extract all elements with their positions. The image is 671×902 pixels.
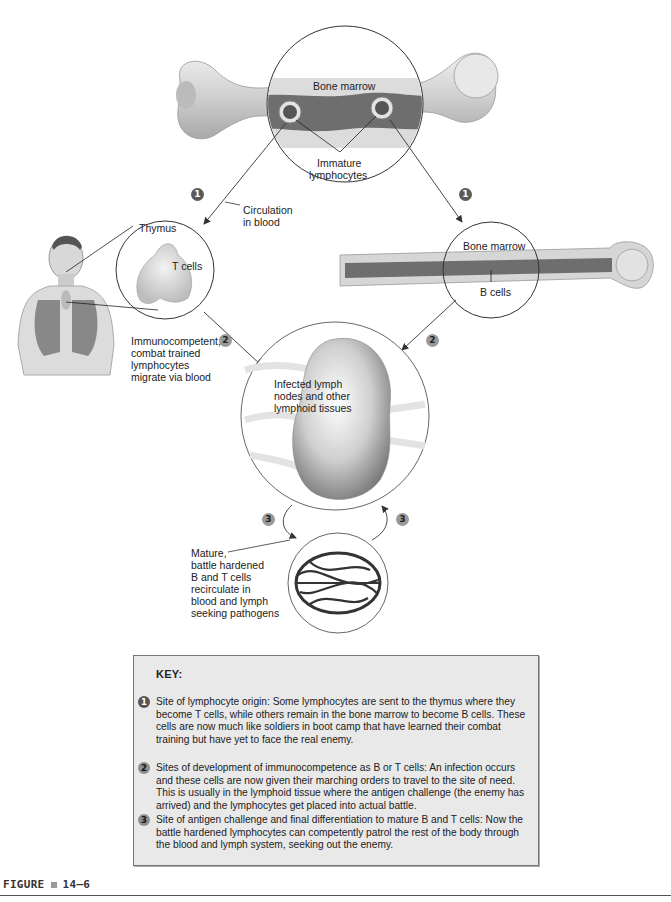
marker-3-right: 3 xyxy=(396,513,409,526)
key-item-1-text: Site of lymphocyte origin: Some lymphocy… xyxy=(156,696,525,745)
recirculation-label-line4: recirculate in xyxy=(191,583,251,595)
key-marker-3: 3 xyxy=(138,814,150,826)
recirculation-label-line3: B and T cells xyxy=(191,571,251,583)
lymph-node-label-line3: lymphoid tissues xyxy=(274,402,352,414)
figure-caption: FIGURE14–6 xyxy=(3,878,90,891)
marker-2-left: 2 xyxy=(219,334,232,347)
right-bone-marrow-label: Bone marrow xyxy=(463,240,525,252)
key-item-2: 2 Sites of development of immunocompeten… xyxy=(156,762,526,812)
key-marker-2: 2 xyxy=(138,762,150,774)
key-item-1: 1 Site of lymphocyte origin: Some lympho… xyxy=(156,696,526,746)
key-item-3: 3 Site of antigen challenge and final di… xyxy=(156,814,526,852)
top-bone-marrow-label: Bone marrow xyxy=(313,80,375,92)
recirculation-label-line5: blood and lymph xyxy=(191,595,268,607)
migration-label-line2: combat trained xyxy=(131,347,200,359)
human-torso-illustration xyxy=(18,236,114,375)
migration-label-line4: migrate via blood xyxy=(131,371,211,383)
figure-number: 14–6 xyxy=(63,878,91,891)
key-item-2-text: Sites of development of immunocompetence… xyxy=(156,762,524,811)
arrow-to-right-bone xyxy=(390,120,462,222)
key-marker-1: 1 xyxy=(138,696,150,708)
lymph-node-magnified-circle xyxy=(241,322,429,510)
recirculation-label-line6: seeking pathogens xyxy=(191,607,279,619)
figure-label: FIGURE xyxy=(3,878,45,891)
lymph-vessel-network-circle xyxy=(288,533,388,633)
key-panel: KEY: 1 Site of lymphocyte origin: Some l… xyxy=(133,655,539,866)
right-bone-illustration xyxy=(340,222,653,318)
circulation-label-2: in blood xyxy=(243,216,280,228)
marker-2-right: 2 xyxy=(426,334,439,347)
recirculation-label-line2: battle hardened xyxy=(191,559,264,571)
thymus-label: Thymus xyxy=(139,222,176,234)
immature-lymphocytes-label-2: lymphocytes xyxy=(309,169,367,181)
marker-3-left: 3 xyxy=(262,513,275,526)
marker-1-left: 1 xyxy=(191,188,204,201)
immature-lymphocytes-label: Immature xyxy=(317,157,361,169)
square-bullet-icon xyxy=(51,882,57,888)
key-title: KEY: xyxy=(156,668,182,680)
circulation-label: Circulation xyxy=(243,204,293,216)
key-item-3-text: Site of antigen challenge and final diff… xyxy=(156,814,523,850)
lymph-node-label-line2: nodes and other xyxy=(274,390,350,402)
b-cells-label: B cells xyxy=(480,286,511,298)
migration-label-line1: Immunocompetent, xyxy=(131,335,221,347)
lymph-node-label-line1: Infected lymph xyxy=(274,378,342,390)
caption-rule xyxy=(0,895,671,896)
t-cells-label: T cells xyxy=(172,260,202,272)
migration-label-line3: lymphocytes xyxy=(131,359,189,371)
marker-1-right: 1 xyxy=(459,188,472,201)
recirculation-label-line1: Mature, xyxy=(191,547,227,559)
